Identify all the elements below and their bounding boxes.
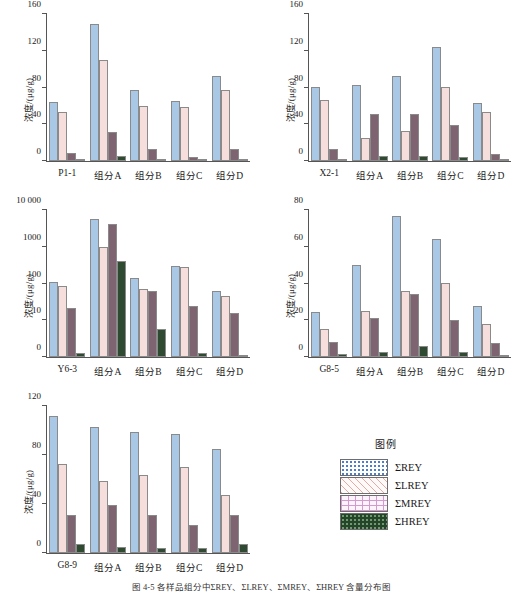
y-axis-tick-label: 0 — [299, 342, 304, 352]
bar-group: 组分D — [209, 210, 250, 357]
bar-ΣHREY — [500, 355, 509, 357]
chart-panel-p1-1: 浓度/(μg/g) 04080120160P1-1组分A组分B组分C组分D — [0, 2, 262, 198]
pink-diagonal-swatch-icon — [340, 477, 388, 494]
y-axis-tick-label: 80 — [294, 195, 303, 205]
bar-ΣHREY — [459, 352, 468, 358]
y-axis-tick-label: 60 — [294, 232, 303, 242]
bar-ΣMREY — [370, 114, 379, 161]
bar-ΣLREY — [320, 100, 329, 161]
x-axis-tick-label: 组分C — [176, 168, 202, 182]
bar-ΣHREY — [338, 159, 347, 161]
bar-ΣMREY — [108, 224, 117, 357]
bar-ΣREY — [90, 219, 99, 357]
bar-group: 组分B — [390, 210, 430, 357]
bar-ΣREY — [432, 239, 441, 357]
bar-ΣREY — [432, 47, 441, 161]
bar-ΣREY — [212, 291, 221, 357]
bar-ΣLREY — [320, 329, 329, 357]
x-axis-tick-label: 组分D — [216, 560, 243, 574]
bar-ΣHREY — [379, 352, 388, 358]
bar-ΣREY — [212, 449, 221, 553]
blue-dotted-swatch-icon — [340, 459, 388, 476]
bar-ΣLREY — [361, 138, 370, 161]
bar-ΣLREY — [441, 283, 450, 357]
bar-ΣHREY — [76, 353, 85, 357]
bar-ΣHREY — [419, 346, 428, 357]
bar-ΣREY — [473, 306, 482, 357]
bar-group: 组分D — [471, 14, 511, 161]
figure-root: 浓度/(μg/g) 04080120160P1-1组分A组分B组分C组分D 浓度… — [0, 0, 523, 594]
x-axis-tick-label: 组分D — [477, 364, 504, 378]
bar-ΣMREY — [148, 515, 157, 553]
bar-ΣLREY — [221, 296, 230, 357]
bar-ΣREY — [130, 90, 139, 161]
pink-grid-swatch-icon — [340, 495, 388, 512]
bar-ΣHREY — [198, 548, 207, 553]
bar-group: 组分A — [88, 406, 129, 553]
bar-group: 组分C — [169, 14, 210, 161]
x-axis-tick-label: P1-1 — [58, 168, 76, 178]
bar-ΣHREY — [198, 353, 207, 357]
bar-group: G8-5 — [309, 210, 349, 357]
bar-ΣMREY — [491, 154, 500, 161]
legend-item-lrey: ΣLREY — [340, 476, 490, 494]
bar-group: 组分B — [128, 406, 169, 553]
plot-area-y6-3: 010100100010 000Y6-3组分A组分B组分C组分D — [46, 210, 250, 358]
legend-title: 图例 — [340, 436, 432, 451]
x-axis-tick-label: 组分B — [135, 168, 161, 182]
x-axis-tick-label: 组分A — [94, 560, 121, 574]
bar-ΣMREY — [67, 515, 76, 553]
bar-ΣREY — [49, 102, 58, 161]
x-axis-tick-label: 组分B — [397, 168, 423, 182]
bar-groups: G8-5组分A组分B组分C组分D — [309, 210, 511, 357]
bar-group: 组分A — [349, 210, 389, 357]
bar-ΣLREY — [180, 107, 189, 161]
y-axis-tick-label: 40 — [294, 109, 303, 119]
chart-panel-y6-3: 浓度/(μg/g) 010100100010 000Y6-3组分A组分B组分C组… — [0, 198, 262, 394]
bar-group: 组分D — [209, 14, 250, 161]
chart-panel-g8-5: 浓度/(μg/g) 020406080G8-5组分A组分B组分C组分D — [262, 198, 523, 394]
bar-group: 组分B — [128, 14, 169, 161]
bar-group: 组分C — [169, 210, 210, 357]
bar-ΣREY — [90, 427, 99, 553]
y-axis-tick-label: 80 — [32, 73, 41, 83]
bar-group: X2-1 — [309, 14, 349, 161]
bar-ΣMREY — [370, 318, 379, 358]
bar-ΣHREY — [157, 159, 166, 161]
bar-group: 组分A — [349, 14, 389, 161]
bar-ΣLREY — [58, 112, 67, 161]
bar-ΣLREY — [221, 90, 230, 161]
x-axis-tick-label: G8-5 — [319, 364, 339, 374]
bar-group: 组分B — [128, 210, 169, 357]
x-axis-tick-label: 组分C — [176, 364, 202, 378]
y-axis-tick-label: 0 — [37, 146, 42, 156]
plot-area-x2-1: 04080120160X2-1组分A组分B组分C组分D — [308, 14, 511, 162]
y-axis-tick-label: 0 — [37, 342, 42, 352]
chart-panel-x2-1: 浓度/(μg/g) 04080120160X2-1组分A组分B组分C组分D — [262, 2, 523, 198]
x-axis-tick-label: Y6-3 — [58, 364, 78, 374]
bar-group: 组分C — [169, 406, 210, 553]
bar-ΣMREY — [108, 132, 117, 161]
bar-ΣHREY — [198, 159, 207, 161]
bar-ΣMREY — [329, 149, 338, 161]
x-axis-tick-label: 组分B — [397, 364, 423, 378]
y-axis-tick-label: 0 — [299, 146, 304, 156]
bar-ΣHREY — [239, 159, 248, 161]
bar-ΣMREY — [450, 320, 459, 357]
bar-ΣLREY — [99, 247, 108, 357]
bar-ΣREY — [352, 265, 361, 357]
x-axis-tick-label: 组分C — [437, 364, 463, 378]
bar-ΣHREY — [379, 156, 388, 162]
legend-panel: 图例 ΣREY ΣLREY ΣMREY ΣHREY — [262, 394, 523, 590]
y-axis-tick-label: 100 — [28, 269, 42, 279]
bar-ΣLREY — [58, 464, 67, 553]
bar-group: 组分A — [88, 210, 129, 357]
bar-ΣLREY — [482, 324, 491, 357]
bar-ΣHREY — [419, 156, 428, 162]
bar-ΣHREY — [157, 548, 166, 553]
bar-ΣMREY — [230, 149, 239, 161]
x-axis-tick-label: 组分D — [216, 168, 243, 182]
bar-ΣREY — [352, 85, 361, 161]
bar-groups: P1-1组分A组分B组分C组分D — [47, 14, 250, 161]
bar-group: 组分C — [430, 14, 470, 161]
